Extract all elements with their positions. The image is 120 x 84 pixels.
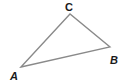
vertex-label-a: A xyxy=(9,70,18,82)
vertex-label-b: B xyxy=(110,54,118,66)
triangle-diagram: A B C xyxy=(0,0,120,84)
vertex-label-c: C xyxy=(65,1,73,13)
triangle-abc xyxy=(21,14,110,67)
